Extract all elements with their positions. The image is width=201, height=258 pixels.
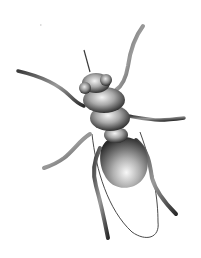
eye-right (100, 74, 112, 86)
leg-front-left (18, 71, 84, 106)
antenna (84, 50, 90, 72)
insect-illustration: Grayscale rendered illustration of a fly… (0, 0, 201, 258)
leg-mid-right (128, 116, 184, 120)
leg-mid-left (44, 134, 90, 168)
speck (40, 24, 42, 26)
eye-left (79, 82, 91, 94)
leg-front-right (116, 26, 143, 90)
abdomen (100, 137, 148, 188)
